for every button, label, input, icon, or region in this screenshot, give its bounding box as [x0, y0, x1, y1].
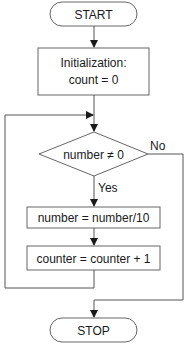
stop-terminator: STOP — [50, 318, 137, 342]
yes-label: Yes — [98, 181, 118, 195]
decision-diamond: number ≠ 0 — [39, 132, 148, 176]
step-number-divide-box: number = number/10 — [27, 207, 160, 228]
step1-label: number = number/10 — [38, 211, 150, 225]
step-counter-increment-box: counter = counter + 1 — [27, 246, 160, 270]
no-label: No — [150, 139, 166, 153]
step2-label: counter = counter + 1 — [36, 252, 150, 266]
decision-label: number ≠ 0 — [63, 148, 124, 162]
init-box: Initialization: count = 0 — [38, 48, 149, 95]
init-label-line2: count = 0 — [69, 73, 119, 87]
init-label-line1: Initialization: — [60, 56, 126, 70]
flowchart: START Initialization: count = 0 number ≠… — [0, 0, 190, 345]
start-terminator: START — [50, 2, 137, 26]
no-branch-arrow — [94, 154, 183, 317]
stop-label: STOP — [77, 324, 109, 338]
start-label: START — [74, 8, 113, 22]
